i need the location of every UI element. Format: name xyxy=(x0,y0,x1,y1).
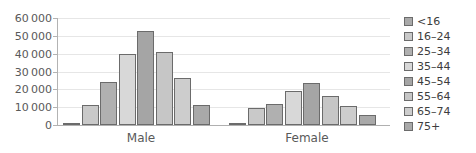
legend-swatch-icon xyxy=(404,47,413,56)
y-axis-tick-label: 50 000 xyxy=(15,30,52,41)
bar xyxy=(119,54,136,125)
legend-label: 75+ xyxy=(417,121,440,132)
legend-swatch-icon xyxy=(404,32,413,41)
bar xyxy=(340,106,357,125)
y-axis-tick-mark xyxy=(53,72,57,73)
legend-item[interactable]: 65–74 xyxy=(404,104,476,119)
bar xyxy=(63,123,80,125)
bar xyxy=(82,105,99,126)
legend-label: 45–54 xyxy=(417,76,451,87)
bar xyxy=(156,52,173,125)
y-axis-tick-label: 30 000 xyxy=(15,66,52,77)
legend-item[interactable]: 45–54 xyxy=(404,74,476,89)
bar-group-male xyxy=(58,18,224,125)
y-axis-tick-mark xyxy=(53,36,57,37)
legend-label: 35–44 xyxy=(417,61,451,72)
legend-item[interactable]: 35–44 xyxy=(404,59,476,74)
legend-item[interactable]: 75+ xyxy=(404,119,476,134)
bar-chart: 010 00020 00030 00040 00050 00060 000 Ma… xyxy=(0,0,476,153)
legend-label: 16–24 xyxy=(417,31,451,42)
bar xyxy=(248,108,265,125)
y-axis-tick-label: 0 xyxy=(45,120,52,131)
y-axis-tick-mark xyxy=(53,107,57,108)
bar-group-female xyxy=(224,18,390,125)
legend: <1616–2425–3435–4445–5455–6465–7475+ xyxy=(404,14,476,134)
legend-swatch-icon xyxy=(404,107,413,116)
y-axis-tick-mark xyxy=(53,125,57,126)
legend-label: 65–74 xyxy=(417,106,451,117)
legend-item[interactable]: <16 xyxy=(404,14,476,29)
legend-label: <16 xyxy=(417,16,440,27)
bar xyxy=(174,78,191,125)
bar xyxy=(322,96,339,125)
bar xyxy=(193,105,210,125)
legend-item[interactable]: 55–64 xyxy=(404,89,476,104)
bar xyxy=(285,91,302,125)
x-axis-label-female: Female xyxy=(224,131,390,145)
y-axis-tick-label: 60 000 xyxy=(15,13,52,24)
bar xyxy=(303,83,320,125)
legend-label: 55–64 xyxy=(417,91,451,102)
legend-swatch-icon xyxy=(404,62,413,71)
legend-swatch-icon xyxy=(404,122,413,131)
bar xyxy=(359,115,376,125)
legend-item[interactable]: 25–34 xyxy=(404,44,476,59)
legend-label: 25–34 xyxy=(417,46,451,57)
bar xyxy=(229,123,246,125)
bar xyxy=(100,82,117,125)
y-axis-tick-mark xyxy=(53,54,57,55)
x-axis-label-male: Male xyxy=(58,131,224,145)
axis-baseline xyxy=(58,125,390,126)
bar xyxy=(137,31,154,125)
bar xyxy=(266,104,283,125)
y-axis-tick-labels: 010 00020 00030 00040 00050 00060 000 xyxy=(0,0,52,153)
y-axis-tick-mark xyxy=(53,18,57,19)
y-axis-tick-label: 40 000 xyxy=(15,48,52,59)
plot-area xyxy=(58,18,390,125)
y-axis-tick-label: 20 000 xyxy=(15,84,52,95)
y-axis-tick-mark xyxy=(53,89,57,90)
legend-swatch-icon xyxy=(404,92,413,101)
y-axis-tick-label: 10 000 xyxy=(15,102,52,113)
legend-item[interactable]: 16–24 xyxy=(404,29,476,44)
legend-swatch-icon xyxy=(404,77,413,86)
legend-swatch-icon xyxy=(404,17,413,26)
